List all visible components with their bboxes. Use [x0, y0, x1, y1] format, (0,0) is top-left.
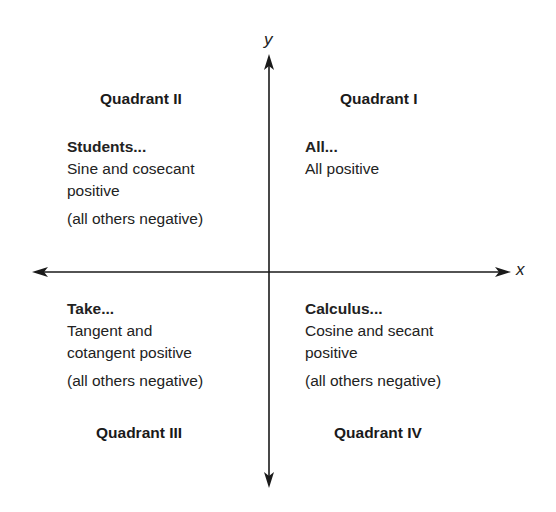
quadrant-iv-line-2: positive: [305, 342, 441, 364]
quadrant-iv-note: (all others negative): [305, 370, 441, 392]
quadrant-i-title: Quadrant I: [340, 90, 418, 108]
quadrant-ii-line-1: Sine and cosecant: [67, 158, 203, 180]
quadrant-iv-title: Quadrant IV: [334, 424, 422, 442]
quadrant-ii-text: Students... Sine and cosecant positive (…: [67, 136, 203, 230]
quadrant-ii-title: Quadrant II: [100, 90, 182, 108]
quadrant-ii-line-2: positive: [67, 180, 203, 202]
coordinate-axes: [0, 0, 556, 512]
quadrant-iii-line-1: Tangent and: [67, 320, 203, 342]
quadrant-iii-line-2: cotangent positive: [67, 342, 203, 364]
quadrant-iv-mnemonic: Calculus...: [305, 298, 441, 320]
y-axis-label: y: [264, 30, 273, 50]
quadrant-iii-mnemonic: Take...: [67, 298, 203, 320]
quadrant-i-mnemonic: All...: [305, 136, 379, 158]
quadrant-iii-text: Take... Tangent and cotangent positive (…: [67, 298, 203, 392]
x-axis-label: x: [516, 260, 525, 280]
quadrant-iii-title: Quadrant III: [96, 424, 182, 442]
quadrant-ii-note: (all others negative): [67, 208, 203, 230]
quadrant-iii-note: (all others negative): [67, 370, 203, 392]
quadrant-iv-text: Calculus... Cosine and secant positive (…: [305, 298, 441, 392]
quadrant-ii-mnemonic: Students...: [67, 136, 203, 158]
quadrant-iv-line-1: Cosine and secant: [305, 320, 441, 342]
quadrant-i-text: All... All positive: [305, 136, 379, 180]
quadrant-i-line-1: All positive: [305, 158, 379, 180]
